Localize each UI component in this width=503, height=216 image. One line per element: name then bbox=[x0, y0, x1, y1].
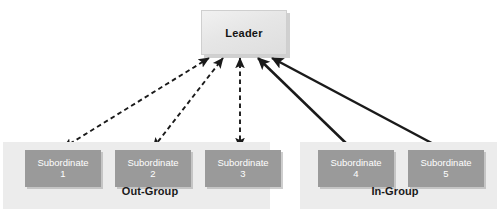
node-subordinate-5-number: 5 bbox=[443, 169, 448, 180]
node-subordinate-1-label: Subordinate bbox=[37, 158, 88, 169]
node-subordinate-3-number: 3 bbox=[240, 169, 245, 180]
out-group-label: Out-Group bbox=[100, 185, 200, 197]
node-subordinate-1[interactable]: Subordinate 1 bbox=[25, 150, 101, 187]
node-leader[interactable]: Leader bbox=[201, 10, 287, 55]
diagram-canvas: Leader Subordinate 1 Subordinate 2 Subor… bbox=[0, 0, 503, 216]
node-leader-label: Leader bbox=[225, 27, 262, 39]
link-subordinate-4-leader bbox=[258, 58, 351, 148]
node-subordinate-4[interactable]: Subordinate 4 bbox=[318, 150, 394, 187]
link-subordinate-5-leader bbox=[272, 58, 441, 148]
node-subordinate-5[interactable]: Subordinate 5 bbox=[408, 150, 484, 187]
node-subordinate-2[interactable]: Subordinate 2 bbox=[115, 150, 191, 187]
node-subordinate-3-label: Subordinate bbox=[217, 158, 268, 169]
node-subordinate-1-number: 1 bbox=[60, 169, 65, 180]
node-subordinate-5-label: Subordinate bbox=[420, 158, 471, 169]
node-subordinate-4-number: 4 bbox=[353, 169, 358, 180]
node-subordinate-4-label: Subordinate bbox=[330, 158, 381, 169]
in-group-label: In-Group bbox=[340, 185, 450, 197]
node-subordinate-2-number: 2 bbox=[150, 169, 155, 180]
node-subordinate-3[interactable]: Subordinate 3 bbox=[205, 150, 281, 187]
node-subordinate-2-label: Subordinate bbox=[127, 158, 178, 169]
